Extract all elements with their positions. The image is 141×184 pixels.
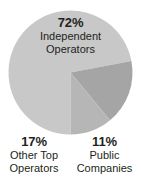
- pie-label-public-companies: 11% Public Companies: [66, 134, 141, 175]
- pie-label-public-companies-percent: 11%: [66, 134, 141, 149]
- pie-label-independent-operators-line1: Independent: [14, 30, 127, 43]
- pie-label-other-top-operators: 17% Other Top Operators: [0, 134, 70, 175]
- pie-label-independent-operators: 72% Independent Operators: [14, 15, 127, 56]
- pie-label-public-companies-line2: Companies: [66, 162, 141, 175]
- pie-label-public-companies-line1: Public: [66, 149, 141, 162]
- pie-label-other-top-operators-line1: Other Top: [0, 149, 70, 162]
- pie-label-other-top-operators-line2: Operators: [0, 162, 70, 175]
- pie-label-other-top-operators-percent: 17%: [0, 134, 70, 149]
- pie-label-independent-operators-percent: 72%: [14, 15, 127, 30]
- pie-chart: 72% Independent Operators 17% Other Top …: [0, 0, 141, 184]
- pie-label-independent-operators-line2: Operators: [14, 43, 127, 56]
